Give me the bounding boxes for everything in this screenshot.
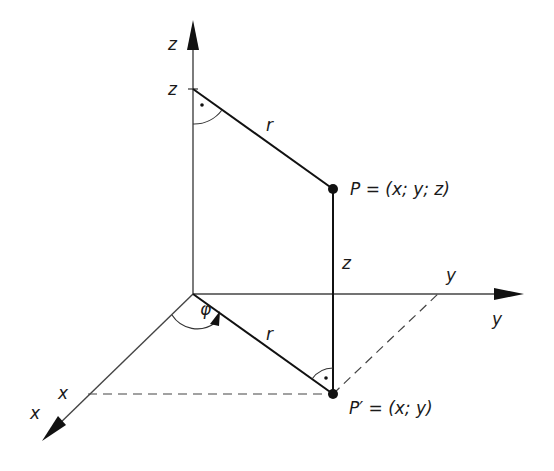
z-axis-label: z [168, 36, 177, 53]
z-tick-label: z [168, 81, 177, 98]
x-axis [55, 294, 193, 428]
phi-arrowhead [210, 311, 220, 326]
point-P [328, 184, 338, 194]
diagram-canvas [0, 0, 554, 471]
r-upper-label: r [266, 117, 273, 134]
z-axis-arrowhead [187, 20, 199, 50]
right-angle-arc-bottom [312, 368, 333, 379]
right-angle-arc-top [193, 110, 222, 124]
point-P-prime [328, 389, 338, 399]
z-height-label: z [342, 255, 351, 272]
right-angle-dot-bottom [324, 376, 328, 380]
right-angle-dot-top [200, 103, 204, 107]
cylindrical-coordinates-diagram: z z r P = (x; y; z) z y y φ r x x P′ = (… [0, 0, 554, 471]
r-lower-label: r [266, 326, 273, 343]
x-axis-label: x [30, 405, 40, 422]
y-projection-dashed [333, 292, 440, 394]
y-axis-label: y [492, 311, 502, 328]
x-tick-label: x [58, 385, 68, 402]
y-axis-arrowhead [494, 288, 524, 300]
y-tick-label: y [446, 267, 456, 284]
point-P-label: P = (x; y; z) [350, 181, 450, 198]
point-P-prime-label: P′ = (x; y) [349, 400, 433, 417]
phi-label: φ [200, 301, 211, 318]
r-upper-segment [193, 89, 333, 189]
x-axis-arrowhead [42, 416, 66, 441]
